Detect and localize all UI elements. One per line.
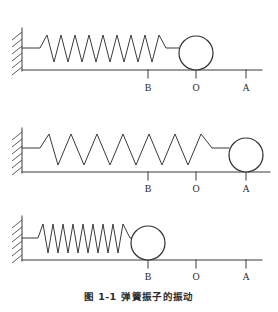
panel-stretched: B O A bbox=[0, 100, 278, 195]
marker-label-a-stretched: A bbox=[242, 183, 250, 194]
spring-stretched bbox=[22, 134, 229, 165]
marker-label-b-stretched: B bbox=[145, 183, 152, 194]
marker-label-o-equilibrium: O bbox=[192, 82, 199, 93]
wall-equilibrium bbox=[12, 28, 22, 75]
wall-compressed bbox=[12, 216, 22, 263]
wall-stretched bbox=[12, 128, 22, 175]
oscillator-ball-compressed bbox=[131, 226, 165, 260]
marker-label-b-compressed: B bbox=[145, 271, 152, 282]
figure-caption: 图 1-1弹簧振子的振动 bbox=[0, 289, 278, 303]
marker-label-o-compressed: O bbox=[192, 271, 199, 282]
tick-marks-equilibrium bbox=[148, 70, 246, 78]
spring-oscillator-figure: B O A B O A bbox=[0, 0, 278, 312]
figure-caption-number: 图 1-1 bbox=[84, 291, 116, 302]
marker-label-a-equilibrium: A bbox=[242, 82, 250, 93]
oscillator-ball-equilibrium bbox=[179, 36, 213, 70]
tick-marks-compressed bbox=[148, 260, 246, 268]
panel-compressed-drawing: B O A bbox=[0, 198, 278, 283]
tick-marks-stretched bbox=[148, 172, 246, 180]
marker-label-o-stretched: O bbox=[192, 183, 199, 194]
figure-caption-text: 弹簧振子的振动 bbox=[121, 291, 193, 302]
panel-equilibrium-drawing: B O A bbox=[0, 0, 278, 100]
panel-equilibrium: B O A bbox=[0, 0, 278, 100]
marker-label-a-compressed: A bbox=[242, 271, 250, 282]
spring-compressed bbox=[22, 224, 140, 253]
spring-equilibrium bbox=[22, 35, 179, 62]
oscillator-ball-stretched bbox=[229, 138, 263, 172]
panel-stretched-drawing: B O A bbox=[0, 100, 278, 195]
marker-label-b-equilibrium: B bbox=[145, 82, 152, 93]
panel-compressed: B O A bbox=[0, 198, 278, 283]
